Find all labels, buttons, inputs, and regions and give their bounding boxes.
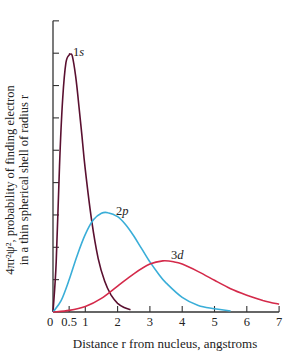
- curve-label-3d: 3d: [171, 248, 184, 263]
- x-tick-label: 4: [179, 315, 185, 330]
- y-axis-label: 4πr²ψ², probability of finding electron …: [3, 65, 31, 295]
- x-tick-label: 5: [211, 315, 217, 330]
- chart-plot-area: [0, 0, 301, 362]
- y-axis-label-line1: 4πr²ψ², probability of finding electron: [3, 65, 17, 295]
- y-axis-label-line2: in a thin spherical shell of radius r: [17, 65, 31, 295]
- x-tick-label: 2: [114, 315, 120, 330]
- curve-3d: [53, 261, 279, 312]
- curves: [53, 54, 279, 312]
- x-tick-label: 1: [82, 315, 88, 330]
- x-tick-label: 0: [47, 315, 53, 330]
- x-tick-label: 3: [147, 315, 153, 330]
- curve-label-1s: 1s: [73, 45, 84, 60]
- curve-label-2p: 2p: [116, 204, 129, 219]
- x-tick-label: 7: [276, 315, 282, 330]
- x-axis-label: Distance r from nucleus, angstroms: [40, 336, 290, 352]
- axes: [53, 21, 279, 312]
- x-tick-label: 0.5: [61, 315, 77, 330]
- curve-1s: [53, 54, 131, 312]
- x-tick-label: 6: [244, 315, 250, 330]
- curve-2p: [53, 212, 231, 312]
